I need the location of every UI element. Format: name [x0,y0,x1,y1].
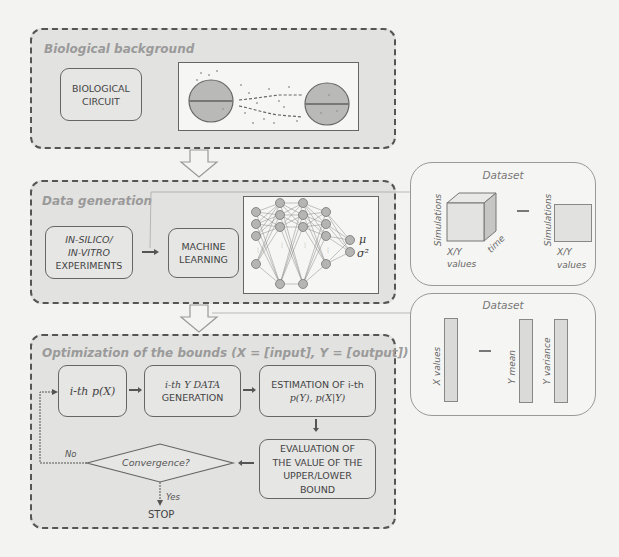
yes-label: Yes [166,492,180,502]
yes-arrowhead-icon [157,500,163,506]
no-label: No [65,449,77,459]
no-loop-line [40,392,87,463]
loop-arrowhead-icon [52,389,58,395]
decision-label: Convergence? [122,457,190,468]
convergence-decision [0,0,619,557]
stop-label: STOP [148,509,174,520]
